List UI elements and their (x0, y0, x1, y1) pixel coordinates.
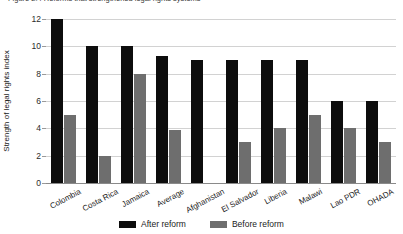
y-tick-label: 4 (36, 123, 41, 133)
x-tick-cell: Costa Rica (81, 185, 116, 219)
legend-swatch-before (210, 221, 227, 228)
legend-label: Before reform (232, 219, 284, 229)
bar-after (121, 46, 133, 183)
y-tick-label: 8 (36, 69, 41, 79)
bar-after (191, 60, 203, 183)
x-tick-label: Costa Rica (80, 187, 119, 213)
legend-item[interactable]: After reform (119, 219, 186, 229)
bar-after (156, 56, 168, 183)
chart-legend: After reformBefore reform (0, 219, 403, 229)
x-axis-labels: ColombiaCosta RicaJamaicaAverageAfghanis… (46, 185, 396, 219)
x-tick-cell: OHADA (361, 185, 396, 219)
bar-group (46, 19, 81, 183)
bar-groups (46, 19, 396, 183)
legend-swatch-after (119, 221, 136, 228)
bar-before (274, 128, 286, 183)
y-tick-label: 2 (36, 151, 41, 161)
bar-group (116, 19, 151, 183)
bar-after (366, 101, 378, 183)
bar-group (221, 19, 256, 183)
bar-group (326, 19, 361, 183)
x-tick-cell: Liberia (256, 185, 291, 219)
bar-after (261, 60, 273, 183)
x-tick-label: Jamaica (120, 187, 151, 209)
x-tick-label: Lao PDR (328, 187, 361, 210)
x-tick-label: OHADA (365, 187, 394, 208)
bar-group (256, 19, 291, 183)
bar-before (309, 115, 321, 183)
legend-item[interactable]: Before reform (210, 219, 284, 229)
bar-chart: Strength of legal rights index 12 10 8 6… (0, 0, 403, 234)
x-tick-label: Liberia (262, 187, 287, 206)
bar-group (186, 19, 221, 183)
bar-group (361, 19, 396, 183)
x-tick-cell: Jamaica (116, 185, 151, 219)
plot-area: 12 10 8 6 4 2 0 (46, 19, 396, 183)
legend-label: After reform (141, 219, 186, 229)
x-tick-label: Average (155, 187, 185, 209)
bar-before (239, 142, 251, 183)
bar-after (86, 46, 98, 183)
bar-before (64, 115, 76, 183)
y-tickmark (42, 183, 46, 184)
bar-group (291, 19, 326, 183)
x-tick-cell: El Salvador (221, 185, 256, 219)
bar-after (296, 60, 308, 183)
y-tick-label: 10 (32, 41, 41, 51)
bar-before (169, 130, 181, 183)
bar-after (226, 60, 238, 183)
y-tick-label: 6 (36, 96, 41, 106)
x-tick-label: Afghanistan (184, 187, 226, 215)
axis-line-zero (46, 183, 396, 184)
bar-after (51, 19, 63, 183)
bar-before (134, 74, 146, 183)
y-tick-label: 0 (36, 178, 41, 188)
x-tick-label: Colombia (48, 187, 82, 211)
x-tick-cell: Lao PDR (326, 185, 361, 219)
x-tick-label: Malawi (297, 187, 323, 207)
bar-before (379, 142, 391, 183)
y-axis-label: Strength of legal rights index (2, 19, 14, 183)
bar-after (331, 101, 343, 183)
x-tick-cell: Average (151, 185, 186, 219)
bar-before (99, 156, 111, 183)
bar-group (151, 19, 186, 183)
x-tick-cell: Colombia (46, 185, 81, 219)
bar-before (344, 128, 356, 183)
x-tick-cell: Afghanistan (186, 185, 221, 219)
bar-group (81, 19, 116, 183)
y-tick-label: 12 (32, 14, 41, 24)
x-tick-cell: Malawi (291, 185, 326, 219)
x-tick-label: El Salvador (220, 187, 260, 214)
